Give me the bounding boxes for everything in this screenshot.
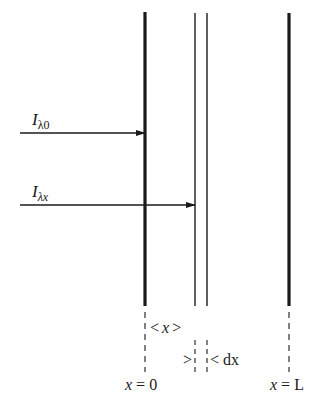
dx-left-marker: > (183, 351, 192, 368)
x-span-label: <x> (150, 319, 181, 336)
origin-label: x= 0 (124, 376, 157, 393)
slab-diagram: Iλ0 Iλx <x> > <dx x= 0 x= L (0, 0, 334, 419)
intensity-at-x-label: Iλx (31, 182, 49, 204)
end-label: x= L (269, 376, 304, 393)
dx-label: <dx (210, 351, 239, 368)
incident-intensity-label: Iλ0 (31, 110, 50, 132)
